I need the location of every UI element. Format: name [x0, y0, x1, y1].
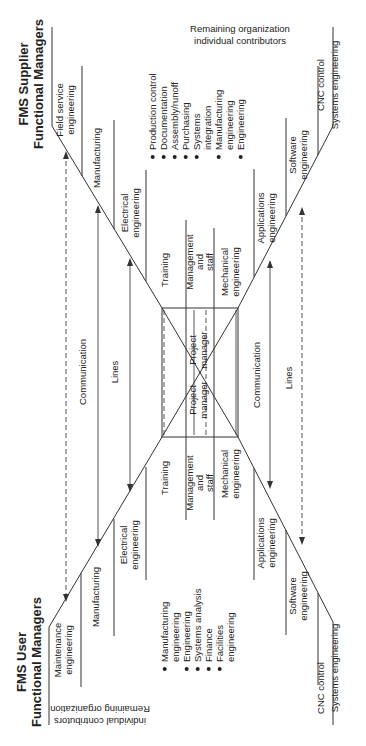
svg-text:Manufacturing: Manufacturing: [91, 128, 102, 188]
bullet-icon: [173, 155, 177, 159]
svg-text:engineering: engineering: [298, 571, 309, 621]
svg-text:engineering: engineering: [224, 100, 235, 150]
svg-text:Training: Training: [159, 253, 170, 287]
svg-text:Mechanical: Mechanical: [219, 248, 230, 296]
user-group-software: Software engineering: [287, 571, 309, 621]
svg-text:Engineering: Engineering: [181, 611, 192, 662]
svg-text:engineering: engineering: [130, 188, 141, 238]
bullet-icon: [217, 155, 221, 159]
svg-text:Training: Training: [159, 461, 170, 495]
svg-text:Systems engineering: Systems engineering: [329, 624, 340, 713]
user-group-management: Management and staff: [184, 455, 215, 511]
lower-communication-label: Communication: [251, 342, 262, 408]
svg-text:engineering: engineering: [230, 247, 241, 297]
user-remaining-org: individual contributors Remaining organi…: [50, 704, 150, 727]
svg-text:Electrical: Electrical: [118, 526, 129, 565]
svg-text:manager: manager: [198, 381, 209, 419]
svg-text:Applications: Applications: [255, 192, 266, 243]
svg-text:Engineering: Engineering: [235, 99, 246, 150]
supplier-group-manufacturing: Manufacturing: [91, 128, 102, 188]
svg-text:engineering: engineering: [230, 449, 241, 499]
svg-text:engineering: engineering: [298, 130, 309, 180]
svg-text:Remaining organization: Remaining organization: [190, 23, 290, 34]
supplier-group-cnc: CNC control Systems engineering: [315, 41, 340, 130]
user-group-maintenance: Maintenance engineering: [52, 623, 74, 677]
user-title: FMS User Functional Managers: [14, 597, 44, 727]
user-group-mechanical: Mechanical engineering: [219, 449, 241, 499]
upper-communication-label: Communication: [77, 339, 88, 405]
supplier-group-mechanical: Mechanical engineering: [219, 247, 241, 297]
svg-text:engineering: engineering: [266, 518, 277, 568]
svg-text:Systems engineering: Systems engineering: [329, 41, 340, 130]
supplier-title: FMS Supplier Functional Managers: [16, 19, 46, 149]
svg-text:CNC control: CNC control: [315, 662, 326, 714]
svg-text:Documentation: Documentation: [158, 86, 169, 150]
supplier-group-software: Software engineering: [287, 130, 309, 180]
svg-text:engineering: engineering: [63, 625, 74, 675]
svg-text:Manufacturing: Manufacturing: [159, 602, 170, 662]
svg-text:Systems analysis: Systems analysis: [192, 588, 203, 662]
svg-text:Finance: Finance: [203, 628, 214, 662]
svg-text:Field service: Field service: [54, 83, 65, 136]
svg-text:engineering: engineering: [170, 612, 181, 662]
svg-text:integration: integration: [202, 106, 213, 150]
svg-text:Manufacturing: Manufacturing: [213, 90, 224, 150]
svg-text:Software: Software: [287, 577, 298, 615]
svg-text:engineering: engineering: [129, 520, 140, 570]
svg-text:Lines: Lines: [283, 366, 294, 389]
svg-text:individual contributors: individual contributors: [54, 716, 146, 727]
svg-text:Applications: Applications: [255, 517, 266, 568]
user-project-manager: Project manager: [187, 381, 209, 419]
bullet-icon: [196, 667, 200, 671]
user-group-electrical: Electrical engineering: [118, 520, 140, 570]
user-group-manufacturing: Manufacturing: [90, 567, 101, 627]
supplier-group-management: Management and staff: [184, 234, 215, 290]
bullet-icon: [218, 667, 222, 671]
svg-text:Lines: Lines: [109, 360, 120, 383]
svg-text:Electrical: Electrical: [119, 194, 130, 233]
svg-text:Purchasing: Purchasing: [180, 102, 191, 150]
supplier-group-electrical: Electrical engineering: [119, 188, 141, 238]
user-group-applications: Applications engineering: [255, 517, 277, 568]
bullet-icon: [195, 155, 199, 159]
user-bullets: Manufacturing engineering Engineering Sy…: [159, 588, 236, 671]
svg-text:Functional Managers: Functional Managers: [31, 19, 46, 149]
svg-text:engineering: engineering: [225, 612, 236, 662]
svg-text:Assembly/runoff: Assembly/runoff: [169, 82, 180, 150]
svg-text:Mechanical: Mechanical: [219, 450, 230, 498]
svg-text:Systems: Systems: [191, 113, 202, 150]
supplier-remaining-org: Remaining organization individual contri…: [190, 23, 290, 46]
svg-text:Manufacturing: Manufacturing: [90, 567, 101, 627]
supplier-group-field-service: Field service engineering: [54, 83, 76, 136]
supplier-dividers: [82, 66, 318, 308]
svg-text:Production control: Production control: [147, 73, 158, 150]
user-group-cnc: CNC control Systems engineering: [315, 624, 340, 714]
supplier-bullets: Production control Documentation Assembl…: [147, 73, 246, 159]
upper-lines-label: Lines: [109, 360, 120, 383]
svg-text:Project: Project: [187, 335, 198, 365]
bullet-icon: [151, 155, 155, 159]
supplier-group-training: Training: [159, 253, 170, 287]
bullet-icon: [207, 667, 211, 671]
svg-text:CNC control: CNC control: [315, 59, 326, 111]
bullet-icon: [162, 155, 166, 159]
svg-text:FMS User: FMS User: [14, 632, 29, 692]
lower-lines-label: Lines: [283, 366, 294, 389]
svg-text:Communication: Communication: [251, 342, 262, 408]
svg-text:Remaining organization: Remaining organization: [50, 704, 150, 715]
bullet-icon: [239, 155, 243, 159]
svg-text:Maintenance: Maintenance: [52, 623, 63, 677]
user-group-training: Training: [159, 461, 170, 495]
svg-text:Project: Project: [187, 385, 198, 415]
svg-text:Functional Managers: Functional Managers: [29, 597, 44, 727]
bullet-icon: [185, 667, 189, 671]
svg-text:manager: manager: [198, 331, 209, 369]
svg-text:engineering: engineering: [65, 85, 76, 135]
bullet-icon: [163, 667, 167, 671]
svg-text:Software: Software: [287, 136, 298, 174]
svg-text:staff: staff: [204, 253, 215, 271]
svg-text:individual contributors: individual contributors: [194, 35, 286, 46]
svg-text:Communication: Communication: [77, 339, 88, 405]
svg-text:engineering: engineering: [266, 193, 277, 243]
bullet-icon: [184, 155, 188, 159]
